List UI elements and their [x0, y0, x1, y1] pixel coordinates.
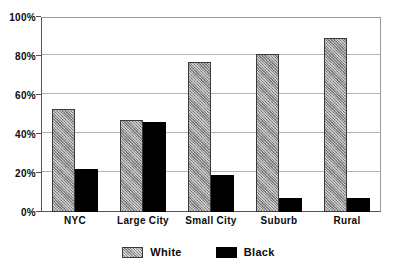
- x-tick-label-nyc: NYC: [64, 215, 86, 226]
- bar-black-small-city: [211, 175, 234, 212]
- legend: WhiteBlack: [0, 246, 397, 258]
- legend-label-white: White: [150, 246, 181, 258]
- bars-layer: [41, 17, 381, 212]
- bar-black-rural: [347, 198, 370, 212]
- bar-black-large-city: [143, 122, 166, 212]
- x-tick-label-large-city: Large City: [117, 215, 169, 226]
- x-tick-label-small-city: Small City: [185, 215, 236, 226]
- y-tick-label: 20%: [0, 168, 36, 179]
- legend-item-white: White: [122, 246, 181, 258]
- x-tick-label-rural: Rural: [333, 215, 360, 226]
- bar-group: [313, 17, 381, 212]
- bar-black-suburb: [279, 198, 302, 212]
- legend-item-black: Black: [216, 246, 275, 258]
- y-tick-label: 40%: [0, 129, 36, 140]
- bar-white-suburb: [256, 54, 279, 212]
- x-tick-label-suburb: Suburb: [261, 215, 298, 226]
- y-tick-label: 80%: [0, 51, 36, 62]
- bar-white-large-city: [120, 120, 143, 212]
- bar-group: [41, 17, 109, 212]
- bar-group: [245, 17, 313, 212]
- legend-swatch-black: [216, 247, 237, 258]
- bar-group: [109, 17, 177, 212]
- bar-white-nyc: [52, 109, 75, 212]
- bar-black-nyc: [75, 169, 98, 212]
- x-axis: NYCLarge CitySmall CitySuburbRural: [41, 215, 381, 231]
- bar-chart: 0%20%40%60%80%100% NYCLarge CitySmall Ci…: [0, 0, 397, 271]
- y-tick-label: 60%: [0, 90, 36, 101]
- y-tick-label: 100%: [0, 12, 36, 23]
- bar-group: [177, 17, 245, 212]
- bar-white-rural: [324, 38, 347, 212]
- bar-white-small-city: [188, 62, 211, 212]
- y-tick-label: 0%: [0, 207, 36, 218]
- legend-label-black: Black: [244, 246, 275, 258]
- legend-swatch-white: [122, 247, 143, 258]
